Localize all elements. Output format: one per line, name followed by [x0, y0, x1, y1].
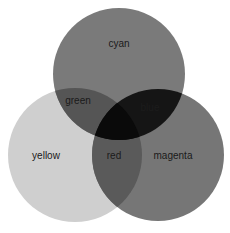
- label-magenta: magenta: [154, 150, 193, 161]
- label-yellow: yellow: [32, 150, 61, 161]
- label-red: red: [107, 150, 121, 161]
- label-cyan: cyan: [108, 38, 129, 49]
- label-blue: blue: [141, 102, 160, 113]
- venn-diagram: cyan green blue yellow red magenta: [0, 0, 230, 233]
- label-green: green: [65, 95, 91, 106]
